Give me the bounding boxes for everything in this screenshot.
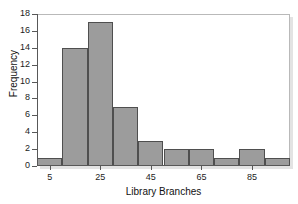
x-axis-tick-mark	[100, 166, 101, 170]
y-axis-tick-label: 6	[0, 110, 30, 119]
x-axis-tick-mark	[151, 166, 152, 170]
x-axis-tick-label: 65	[181, 172, 221, 182]
y-axis-tick-label: 12	[0, 60, 30, 69]
y-axis-tick-mark	[32, 48, 37, 49]
y-axis-tick-mark	[32, 132, 37, 133]
y-axis-tick-mark	[32, 82, 37, 83]
y-axis-line	[37, 14, 38, 166]
x-axis-tick-mark	[201, 166, 202, 170]
y-axis-tick-label: 18	[0, 9, 30, 18]
histogram-bar	[138, 141, 163, 166]
y-axis-tick-mark	[32, 14, 37, 15]
y-axis-tick-mark	[32, 115, 37, 116]
histogram-bar	[62, 48, 87, 166]
x-axis-tick-label: 5	[30, 172, 70, 182]
y-axis-tick-label: 4	[0, 127, 30, 136]
y-axis-tick-mark	[32, 98, 37, 99]
histogram-bar	[113, 107, 138, 166]
histogram-bar	[88, 22, 113, 166]
y-axis-tick-label: 10	[0, 77, 30, 86]
y-axis-tick-label: 0	[0, 161, 30, 170]
x-axis-tick-label: 25	[80, 172, 120, 182]
y-axis-tick-mark	[32, 166, 37, 167]
y-axis-tick-label: 2	[0, 144, 30, 153]
y-axis-tick-label: 14	[0, 43, 30, 52]
x-axis-title: Library Branches	[37, 186, 290, 197]
x-axis-tick-label: 85	[232, 172, 272, 182]
y-axis-tick-label: 8	[0, 93, 30, 102]
y-axis-tick-label: 16	[0, 26, 30, 35]
y-axis-tick-mark	[32, 149, 37, 150]
histogram-bar	[239, 149, 264, 166]
histogram-chart: 181614121086420 525456585 Library Branch…	[0, 0, 298, 204]
bars-layer	[37, 14, 290, 166]
x-axis-tick-label: 45	[131, 172, 171, 182]
y-axis-tick-mark	[32, 65, 37, 66]
histogram-bar	[189, 149, 214, 166]
histogram-bar	[164, 149, 189, 166]
x-axis-tick-mark	[50, 166, 51, 170]
x-axis-tick-mark	[252, 166, 253, 170]
y-axis-tick-mark	[32, 31, 37, 32]
